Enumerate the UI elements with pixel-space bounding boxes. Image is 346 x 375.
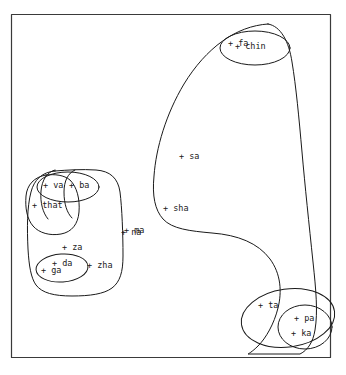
point-label-zha: + zha bbox=[87, 261, 113, 270]
point-label-ta: + ta bbox=[258, 301, 278, 310]
point-label-za: + za bbox=[62, 243, 82, 252]
cluster-diagram-canvas: + fa + chin + sa + sha + va + ba + that … bbox=[0, 0, 346, 375]
point-label-pa: + pa bbox=[294, 314, 314, 323]
point-label-that: + that bbox=[32, 201, 63, 210]
point-label-ma: + ma bbox=[124, 226, 144, 235]
point-label-sa: + sa bbox=[179, 152, 199, 161]
point-label-va: + va bbox=[43, 181, 63, 190]
point-label-ga: + ga bbox=[41, 266, 61, 275]
point-label-ka: + ka bbox=[291, 329, 311, 338]
point-label-sha: + sha bbox=[163, 204, 189, 213]
point-label-ba: + ba bbox=[69, 181, 89, 190]
point-label-chin: + chin bbox=[235, 42, 266, 51]
